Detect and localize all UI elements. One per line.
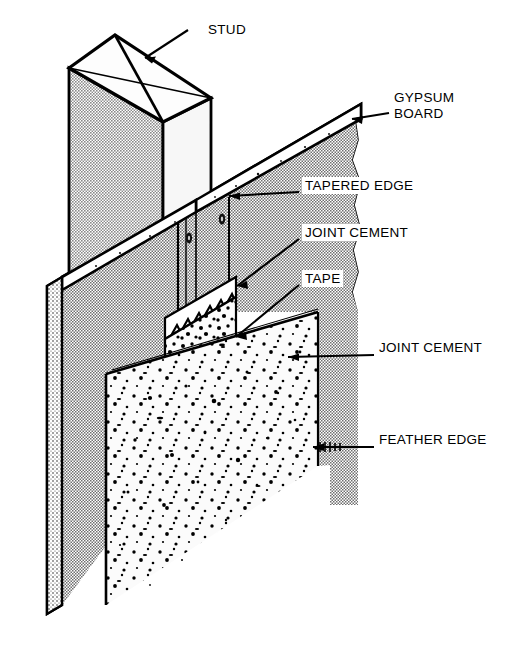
label-stud: STUD xyxy=(208,22,246,37)
label-joint-cement-lower: JOINT CEMENT xyxy=(379,340,482,355)
label-tape: TAPE xyxy=(302,270,343,287)
label-gypsum-board-line1: GYPSUM xyxy=(394,90,454,105)
illustration-canvas: STUD GYPSUM BOARD TAPERED EDGE JOINT CEM… xyxy=(0,0,505,654)
label-joint-cement-upper: JOINT CEMENT xyxy=(302,224,411,241)
leader-stud xyxy=(145,30,188,64)
label-gypsum-board: GYPSUM BOARD xyxy=(394,90,490,122)
label-gypsum-board-line2: BOARD xyxy=(394,106,444,121)
label-feather-edge: FEATHER EDGE xyxy=(379,432,487,447)
label-tapered-edge: TAPERED EDGE xyxy=(302,177,416,194)
